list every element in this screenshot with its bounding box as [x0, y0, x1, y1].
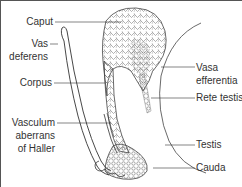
label-testis: Testis: [196, 139, 222, 150]
label-corpus: Corpus: [5, 77, 52, 88]
label-caput: Caput: [9, 16, 53, 27]
label-rete-testis: Rete testis: [196, 92, 242, 103]
label-cauda: Cauda: [196, 162, 225, 173]
diagram-frame: Caput Vas deferens Corpus Vasculum aberr…: [0, 0, 242, 187]
label-vasculum-aberrans: Vasculum aberrans of Haller: [3, 117, 55, 154]
corpus-region: [104, 61, 129, 153]
label-vasa-efferentia: Vasa efferentia: [196, 62, 238, 86]
label-vas-deferens: Vas deferens: [3, 38, 48, 62]
